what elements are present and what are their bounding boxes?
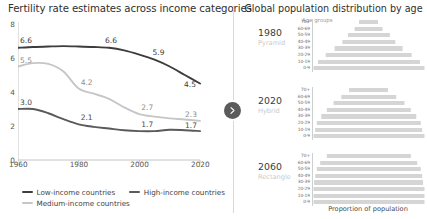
pyramid-row: 50-59 [292,166,424,173]
pyramid-block-1980: 1980Pyramid70+60-6950-5940-4930-3920-291… [240,18,427,76]
pyramid-row: 10-19 [292,59,424,66]
pyramid-row: 10-19 [292,193,424,200]
pyramid-row: 20-29 [292,186,424,193]
age-group-label: 0-9 [292,200,312,204]
pyramid-row: 30-39 [292,45,424,52]
y-tick-4: 4 [1,89,15,96]
legend-item-high-income[interactable]: High-income countries [129,188,225,197]
pyramid-bar-track [312,179,424,186]
population-chart-title: Global population distribution by age [244,3,422,14]
pyramid-row: 60-69 [292,160,424,167]
pyramid-rows: 70+60-6950-5940-4930-3920-2910-190-9 [292,19,424,72]
age-group-label: 60-69 [292,95,312,99]
x-tick-2020: 2020 [191,161,210,168]
pyramid-row: 30-39 [292,179,424,186]
pyramid-bar-track [312,153,424,160]
pyramid-row: 40-49 [292,107,424,114]
pyramid-row: 60-69 [292,26,424,33]
age-group-label: 40-49 [292,40,312,44]
pyramid-bar-track [312,133,424,140]
pyramid-block-2060: 2060Rectangle70+60-6950-5940-4930-3920-2… [240,152,427,210]
legend-item-medium-income[interactable]: Medium-income countries [22,199,130,208]
fertility-plot-area: 02468 1960198020002020 6.66.65.94.55.54.… [18,20,208,178]
population-xaxis-caption: Proportion of population [302,205,427,213]
age-group-label: 50-59 [292,101,312,105]
pyramid-row: 70+ [292,19,424,26]
point-label: 2.1 [81,114,93,122]
pyramid-row: 20-29 [292,52,424,59]
pyramid-shape-label: Pyramid [258,40,285,47]
pyramid-bar-track [312,32,424,39]
pyramid-bar-track [312,26,424,33]
pyramid-bar-track [312,173,424,180]
pyramid-bar [313,200,424,204]
x-tick-2000: 2000 [130,161,149,168]
pyramid-shape-label: Rectangle [258,174,291,181]
fertility-legend: Low-income countries High-income countri… [22,188,222,210]
pyramid-bar-track [312,87,424,94]
legend-swatch-high-income [129,191,140,193]
age-group-label: 20-29 [292,53,312,57]
pyramid-bar-track [312,193,424,200]
legend-label-medium-income: Medium-income countries [37,199,130,208]
point-label: 1.7 [141,121,153,129]
point-label: 4.5 [184,81,196,89]
fertility-chart-title: Fertility rate estimates across income c… [8,3,252,14]
age-group-label: 60-69 [292,27,312,31]
pyramid-row: 20-29 [292,120,424,127]
pyramid-year-label: 1980 [258,28,282,37]
pyramid-row: 60-69 [292,94,424,101]
pyramid-row: 40-49 [292,173,424,180]
age-group-label: 0-9 [292,66,312,70]
age-group-label: 70+ [292,20,312,24]
pyramid-bar-track [312,52,424,59]
pyramid-bar [314,180,424,184]
point-label: 5.9 [153,49,165,57]
pyramid-rows: 70+60-6950-5940-4930-3920-2910-190-9 [292,153,424,206]
pyramid-bar [326,154,410,158]
point-label: 6.6 [20,37,32,45]
legend-row-2: Medium-income countries [22,199,222,207]
x-tick-1960: 1960 [9,161,28,168]
legend-label-high-income: High-income countries [144,188,225,197]
age-group-label: 30-39 [292,46,312,50]
age-group-label: 50-59 [292,167,312,171]
pyramid-bar [347,33,389,37]
point-label: 2.7 [141,104,153,112]
pyramid-bar-track [312,107,424,114]
pyramid-bar [313,187,424,191]
pyramid-bar [315,128,423,132]
point-label: 2.3 [185,111,197,119]
pyramid-bar [320,161,418,165]
age-group-label: 40-49 [292,108,312,112]
legend-item-low-income[interactable]: Low-income countries [22,188,115,197]
pyramid-bar [317,60,419,64]
pyramid-bar-track [312,166,424,173]
legend-row-1: Low-income countries High-income countri… [22,188,222,196]
pyramid-bar-track [312,65,424,72]
pyramid-row: 50-59 [292,100,424,107]
pyramid-bar [333,101,404,105]
pyramid-bar [321,114,416,118]
pyramid-block-2020: 2020Hybrid70+60-6950-5940-4930-3920-2910… [240,86,427,144]
legend-swatch-low-income [22,191,33,193]
population-pyramid-panel: Global population distribution by age Ag… [240,0,427,219]
pyramid-bar [313,194,424,198]
x-tick-1980: 1980 [70,161,89,168]
pyramid-bar [316,167,420,171]
pyramid-bar [313,66,424,70]
dashboard-root: Fertility rate estimates across income c… [0,0,427,219]
point-label: 5.5 [20,57,32,65]
pyramid-bar-track [312,186,424,193]
pyramid-bar-track [312,127,424,134]
panel-divider [226,0,240,219]
pyramid-row: 70+ [292,87,424,94]
pyramid-year-label: 2060 [258,162,282,171]
pyramid-row: 70+ [292,153,424,160]
pyramid-bar-track [312,160,424,167]
pyramid-bar [325,53,412,57]
pyramid-bar [359,20,379,24]
divider-expand-button[interactable] [224,102,241,119]
pyramid-bar-track [312,59,424,66]
age-group-label: 30-39 [292,114,312,118]
